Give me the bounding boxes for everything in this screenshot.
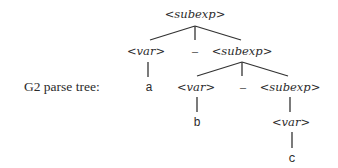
edge-root-to-var <box>150 26 195 40</box>
edge-root-to-subexp <box>195 26 241 40</box>
node-l1-subexp: <subexp> <box>212 44 273 58</box>
node-l2-var: <var> <box>177 80 215 94</box>
node-l3-var: <var> <box>272 115 310 129</box>
node-l1-dash: – <box>191 44 199 58</box>
parse-tree-diagram: G2 parse tree: <subexp> <var> – <subexp>… <box>0 0 338 168</box>
node-root-subexp: <subexp> <box>165 7 226 21</box>
leaf-a: a <box>145 81 152 95</box>
leaf-b: b <box>193 116 200 130</box>
node-l2-dash: – <box>239 80 247 94</box>
leaf-c: c <box>288 152 295 166</box>
caption: G2 parse tree: <box>24 79 100 94</box>
parse-tree-figure: G2 parse tree: <subexp> <var> – <subexp>… <box>0 0 338 168</box>
node-l2-subexp: <subexp> <box>260 80 321 94</box>
edge-subexp-to-var <box>197 62 242 76</box>
node-l1-var: <var> <box>127 44 165 58</box>
edge-subexp-to-subexp <box>242 62 288 76</box>
